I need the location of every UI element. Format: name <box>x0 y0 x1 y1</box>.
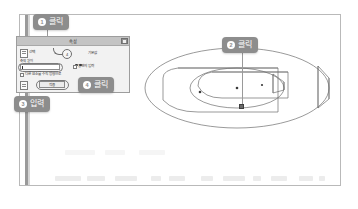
ghost-text-row <box>55 176 325 181</box>
callout-4-number: 4 <box>83 81 91 89</box>
checkbox-both-sides[interactable] <box>73 65 77 69</box>
dialog-title: 속성 <box>69 39 77 44</box>
callout-4-label: 클릭 <box>94 80 109 90</box>
selected-point-marker[interactable] <box>239 104 244 109</box>
apply-button[interactable]: 적용 <box>39 81 65 88</box>
callout-2-number: 2 <box>227 41 235 49</box>
close-icon[interactable] <box>121 38 128 44</box>
callout-click-1: 1 클릭 <box>33 14 69 30</box>
dialog-top-row: 선택 4 기본값 <box>20 48 128 58</box>
text-caret <box>22 66 23 70</box>
checkbox-perpendicular-label[interactable]: 다른 요소를 수직 방향으로 <box>25 72 61 77</box>
ghost-text-row <box>55 150 325 155</box>
checkbox-perpendicular[interactable] <box>20 73 24 77</box>
callout-input-3: 3 입력 <box>14 96 50 112</box>
callout-click-2: 2 클릭 <box>222 37 258 53</box>
callout-1-number: 1 <box>38 18 46 26</box>
callout-3-label: 입력 <box>30 99 45 109</box>
apply-tool-icon[interactable] <box>20 81 28 90</box>
tab-select-label[interactable]: 선택 <box>29 50 35 55</box>
snap-points <box>199 84 263 93</box>
callout-click-4: 4 클릭 <box>78 77 114 93</box>
dialog-titlebar[interactable]: 속성 <box>17 37 129 46</box>
screenshot-root: 속성 선택 4 기본값 축의 길이 양면의 입력 다른 요소를 수직 방향으로 … <box>0 0 358 209</box>
callout-2-leader-line <box>242 53 243 107</box>
callout-3-leader-line <box>25 112 26 170</box>
callout-2-label: 클릭 <box>238 40 253 50</box>
checkbox-both-sides-label[interactable]: 양면의 입력 <box>78 64 94 69</box>
select-tool-icon[interactable] <box>20 49 28 58</box>
axis-length-label: 축의 길이 <box>20 59 33 63</box>
cad-3d-model[interactable] <box>138 38 336 150</box>
callout-1-label: 클릭 <box>49 17 64 27</box>
secondary-option-label[interactable]: 기본값 <box>88 51 97 56</box>
inline-step-marker: 4 <box>62 49 72 59</box>
axis-length-input[interactable] <box>20 64 60 70</box>
callout-3-number: 3 <box>19 100 27 108</box>
